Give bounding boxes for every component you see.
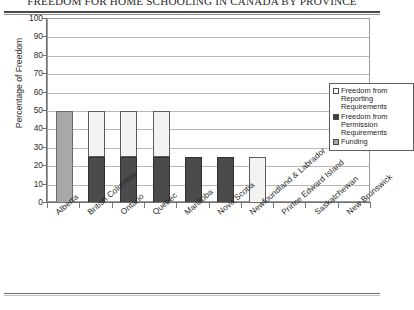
bar-reporting-3 [153,111,170,157]
y-tick-mark-10 [42,184,46,185]
page-rule-top-thin [4,14,380,15]
legend-swatch-permission-icon [333,114,339,120]
x-tick-4 [176,203,177,208]
gridline-90 [48,37,369,38]
y-tick-mark-100 [42,18,46,19]
y-tick-80: 80 [15,51,43,59]
x-tick-3 [144,203,145,208]
x-tick-7 [273,203,274,208]
y-tick-mark-90 [42,36,46,37]
y-tick-mark-70 [42,73,46,74]
x-tick-10 [370,203,371,208]
chart-legend: Freedom from Reporting Requirements Free… [329,83,414,151]
bar-funding-0 [56,111,73,203]
y-tick-mark-50 [42,110,46,111]
bar-reporting-2 [120,111,137,157]
page-rule-bottom [4,293,380,294]
legend-swatch-reporting-icon [333,88,339,94]
legend-item-reporting: Freedom from Reporting Requirements [333,87,410,112]
y-tick-70: 70 [15,69,43,77]
y-tick-10: 10 [15,180,43,188]
y-tick-mark-40 [42,128,46,129]
page-title: FREEDOM FOR HOME SCHOOLING IN CANADA BY … [0,0,384,8]
y-tick-20: 20 [15,161,43,169]
y-tick-mark-80 [42,55,46,56]
x-tick-6 [241,203,242,208]
y-tick-mark-0 [42,202,46,203]
legend-item-funding: Funding [333,138,410,146]
y-tick-mark-60 [42,92,46,93]
x-tick-9 [338,203,339,208]
x-tick-1 [79,203,80,208]
gridline-80 [48,56,369,57]
bar-reporting-1 [88,111,105,157]
y-tick-60: 60 [15,88,43,96]
page-rule-bottom-thin [4,295,380,296]
legend-item-permission: Freedom from Permission Requirements [333,113,410,138]
gridline-70 [48,74,369,75]
x-tick-5 [209,203,210,208]
x-tick-0 [47,203,48,208]
y-tick-30: 30 [15,143,43,151]
y-tick-90: 90 [15,32,43,40]
y-axis-tick-labels: 0102030405060708090100 [10,0,43,310]
y-tick-100: 100 [15,14,43,22]
y-tick-mark-20 [42,165,46,166]
legend-label-permission: Freedom from Permission Requirements [341,113,410,138]
legend-label-funding: Funding [341,138,368,146]
x-tick-2 [112,203,113,208]
page-rule-top [4,11,380,13]
legend-label-reporting: Freedom from Reporting Requirements [341,87,410,112]
x-tick-8 [305,203,306,208]
y-tick-mark-30 [42,147,46,148]
legend-swatch-funding-icon [333,139,339,145]
gridline-60 [48,93,369,94]
y-tick-40: 40 [15,124,43,132]
y-tick-50: 50 [15,106,43,114]
y-tick-0: 0 [15,198,43,206]
